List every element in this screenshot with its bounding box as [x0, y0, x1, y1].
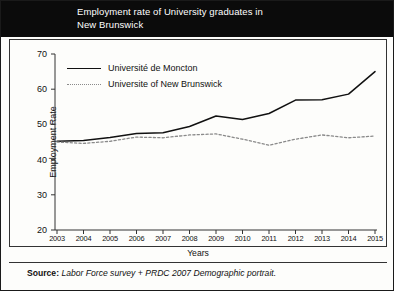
- x-tick-label: 2003: [42, 234, 72, 243]
- y-tick-label: 60: [25, 84, 47, 94]
- x-tick-label: 2010: [228, 234, 258, 243]
- source-body: Labor Force survey + PRDC 2007 Demograph…: [59, 268, 276, 278]
- x-tick-label: 2008: [175, 234, 205, 243]
- x-tick-label: 2006: [122, 234, 152, 243]
- x-tick-label: 2013: [307, 234, 337, 243]
- y-tick-label: 30: [25, 190, 47, 200]
- series-line: [57, 72, 375, 142]
- plot-area: Employment Rate 203040506070 20032004200…: [55, 54, 377, 230]
- x-tick-label: 2005: [95, 234, 125, 243]
- series-line: [57, 134, 375, 145]
- source-prefix: Source:: [27, 268, 59, 278]
- x-tick-label: 2007: [148, 234, 178, 243]
- y-tick-label: 40: [25, 155, 47, 165]
- source-bar: Source: Labor Force survey + PRDC 2007 D…: [9, 262, 387, 283]
- x-tick-label: 2009: [201, 234, 231, 243]
- y-tick-label: 50: [25, 119, 47, 129]
- x-tick-label: 2012: [281, 234, 311, 243]
- x-tick-label: 2014: [334, 234, 364, 243]
- page-title: Employment rate of University graduates …: [77, 6, 263, 31]
- x-tick-label: 2004: [69, 234, 99, 243]
- chart-figure: Employment rate of University graduates …: [0, 0, 394, 291]
- chart-title-bar: Employment rate of University graduates …: [1, 1, 394, 37]
- y-tick-label: 70: [25, 49, 47, 59]
- x-axis-title: Years: [1, 248, 394, 258]
- source-note: Source: Labor Force survey + PRDC 2007 D…: [9, 268, 276, 278]
- plot-panel: Université de Moncton Universite of New …: [9, 39, 387, 247]
- series-layer: [55, 54, 377, 230]
- x-tick-label: 2011: [254, 234, 284, 243]
- x-tick-label: 2015: [360, 234, 390, 243]
